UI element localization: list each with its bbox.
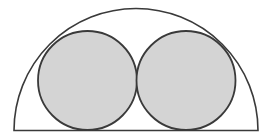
left-circle: [38, 31, 137, 130]
right-circle: [137, 31, 236, 130]
semicircle-diagram: [0, 0, 265, 135]
